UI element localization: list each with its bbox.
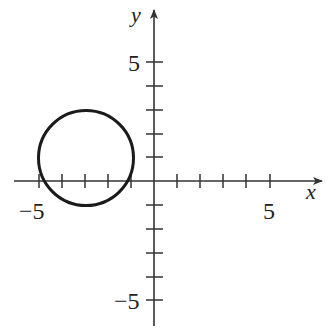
x-tick-label-5: 5 [263,198,275,224]
x-axis-label: x [305,179,316,204]
coordinate-plane: y x 5 −5 −5 5 [0,0,328,334]
y-tick-label-neg5: −5 [114,288,140,314]
x-tick-label-neg5: −5 [19,198,45,224]
circle-curve [39,111,134,206]
y-axis-label: y [129,2,141,27]
y-tick-label-5: 5 [128,50,140,76]
